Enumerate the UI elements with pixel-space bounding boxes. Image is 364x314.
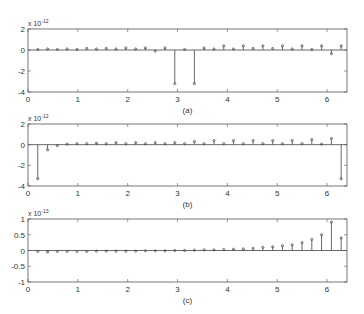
y-tick-label: -1 <box>18 278 26 287</box>
stem-marker <box>330 137 332 139</box>
subplot-caption: (c) <box>183 296 193 305</box>
subplot-a: 0123456-4-202x 10-12(a) <box>18 18 347 115</box>
y-tick-label: -4 <box>18 88 26 97</box>
stem-marker <box>154 50 156 52</box>
x-tick-label: 2 <box>125 95 130 104</box>
stem-marker <box>252 139 254 141</box>
x-tick-label: 6 <box>325 189 330 198</box>
y-tick-label: -4 <box>18 182 26 191</box>
stem-marker <box>291 139 293 141</box>
y-tick-label: 0 <box>21 247 26 256</box>
subplot-c: 0123456-1-0.500.51x 10-13(c) <box>11 208 347 305</box>
x-tick-label: 5 <box>275 189 280 198</box>
y-tick-label: -0.5 <box>11 262 25 271</box>
stem-plot-figure: 0123456-4-202x 10-12(a)0123456-4-202x 10… <box>0 0 364 314</box>
x-tick-label: 6 <box>325 285 330 294</box>
stem-marker <box>291 244 293 246</box>
stem-marker <box>232 139 234 141</box>
x-tick-label: 0 <box>26 189 31 198</box>
x-tick-label: 1 <box>76 189 81 198</box>
stem-marker <box>232 248 234 250</box>
exponent-label: x 10-12 <box>28 113 49 122</box>
x-tick-label: 2 <box>125 189 130 198</box>
stem-marker <box>272 139 274 141</box>
exponent-label: x 10-13 <box>28 208 49 217</box>
x-tick-label: 4 <box>225 189 230 198</box>
y-tick-label: 0 <box>21 141 26 150</box>
axes-box <box>28 29 347 92</box>
exponent-label: x 10-12 <box>28 18 49 27</box>
x-tick-label: 5 <box>275 285 280 294</box>
y-tick-label: 0 <box>21 46 26 55</box>
subplot-caption: (b) <box>183 200 193 209</box>
x-tick-label: 2 <box>125 285 130 294</box>
x-tick-label: 3 <box>175 285 180 294</box>
x-tick-label: 6 <box>325 95 330 104</box>
x-tick-label: 4 <box>225 95 230 104</box>
stem-marker <box>330 53 332 55</box>
x-tick-label: 1 <box>76 95 81 104</box>
x-tick-label: 1 <box>76 285 81 294</box>
y-tick-label: 2 <box>21 120 26 129</box>
y-tick-label: 2 <box>21 25 26 34</box>
x-tick-label: 3 <box>175 95 180 104</box>
stem-marker <box>242 248 244 250</box>
x-tick-label: 3 <box>175 189 180 198</box>
subplot-b: 0123456-4-202x 10-12(b) <box>18 113 347 209</box>
y-tick-label: -2 <box>18 161 26 170</box>
stem-marker <box>252 247 254 249</box>
x-tick-label: 0 <box>26 95 31 104</box>
y-tick-label: 1 <box>21 215 26 224</box>
y-tick-label: -2 <box>18 67 26 76</box>
x-tick-label: 0 <box>26 285 31 294</box>
x-tick-label: 5 <box>275 95 280 104</box>
y-tick-label: 0.5 <box>14 231 26 240</box>
stem-marker <box>193 140 195 142</box>
axes-box <box>28 124 347 186</box>
x-tick-label: 4 <box>225 285 230 294</box>
subplot-caption: (a) <box>183 106 193 115</box>
stem-marker <box>213 139 215 141</box>
